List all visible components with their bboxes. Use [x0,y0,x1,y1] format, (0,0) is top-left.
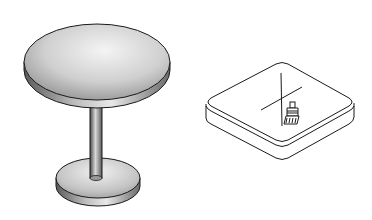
table-top [24,24,170,108]
rounded-box [206,63,354,160]
round-pedestal-table [24,24,170,206]
table-stem [90,100,102,178]
illustration-canvas: Shaded table Wireframe block with paint … [0,0,372,220]
